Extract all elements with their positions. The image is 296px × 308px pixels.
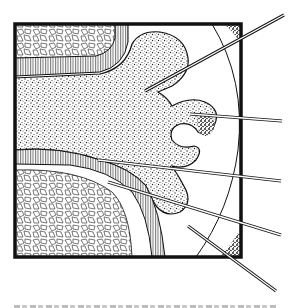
figure-interior: [15, 24, 241, 257]
leader-line-4: [108, 182, 281, 235]
anatomical-figure: [0, 0, 296, 308]
figure-caption-cutoff: [14, 303, 276, 308]
